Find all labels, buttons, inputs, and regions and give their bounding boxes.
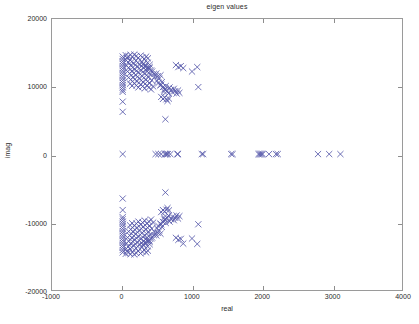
scatter-marker [189,235,195,241]
scatter-marker [195,84,201,90]
y-axis-tick [398,87,402,88]
x-axis-tick [193,286,194,290]
scatter-marker [230,151,236,157]
y-axis-tick-label: 10000 [28,83,47,90]
x-axis-tick [122,19,123,23]
x-axis-tick-labels: -100001000200030004000 [51,293,403,305]
scatter-marker [189,68,195,74]
x-axis-tick-label: -1000 [42,293,60,300]
scatter-marker [120,195,126,201]
scatter-marker [228,151,234,157]
scatter-marker [326,151,332,157]
scatter-marker [155,151,161,157]
scatter-marker [120,151,126,157]
scatter-marker [150,83,156,89]
x-axis-tick [122,286,123,290]
x-axis-title: real [51,305,403,312]
y-axis-tick [52,156,56,157]
scatter-marker [148,216,154,222]
scatter-marker [266,151,272,157]
x-axis-tick [193,19,194,23]
x-axis-tick-label: 2000 [254,293,270,300]
y-axis-tick-label: 20000 [28,15,47,22]
y-axis-tick-label: -10000 [25,219,47,226]
scatter-marker [153,151,159,157]
scatter-marker [175,237,181,243]
x-axis-tick [263,19,264,23]
x-axis-tick [334,19,335,23]
scatter-marker [195,221,201,227]
scatter-marker-layer [52,19,402,290]
scatter-marker [174,151,180,157]
scatter-marker [194,64,200,70]
scatter-marker [150,220,156,226]
scatter-marker [120,109,126,115]
scatter-marker [142,217,148,223]
scatter-marker [194,241,200,247]
y-axis-tick [398,224,402,225]
scatter-marker [162,189,168,195]
scatter-marker [120,99,126,105]
x-axis-tick [263,286,264,290]
x-axis-tick-label: 4000 [395,293,411,300]
y-axis-tick [52,224,56,225]
y-axis-tick [52,87,56,88]
scatter-marker [135,218,141,224]
scatter-marker [180,65,186,71]
x-axis-tick-label: 1000 [184,293,200,300]
scatter-series [120,51,344,257]
x-axis-tick-label: 0 [119,293,123,300]
scatter-marker [135,84,141,90]
scatter-marker [142,85,148,91]
scatter-marker [148,86,154,92]
x-axis-tick [334,286,335,290]
chart-title: eigen values [51,3,403,10]
scatter-marker [315,151,321,157]
scatter-marker [162,116,168,122]
y-axis-tick [398,156,402,157]
x-axis-tick-label: 3000 [325,293,341,300]
scatter-marker [120,207,126,213]
scatter-marker [337,151,343,157]
plot-area [51,18,403,291]
scatter-marker [175,151,181,157]
y-axis-tick-label: 0 [43,151,47,158]
scatter-marker [199,151,205,157]
scatter-marker [200,151,206,157]
figure-canvas: eigen values -20000-1000001000020000 -10… [0,0,419,324]
y-axis-title: imag [4,131,11,171]
